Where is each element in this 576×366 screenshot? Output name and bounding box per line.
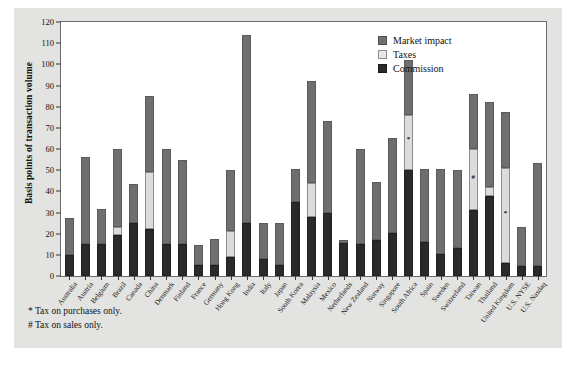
bar-column[interactable] [323,22,332,276]
bar-segment-cm [259,259,268,276]
bar-segment-cm [275,265,284,276]
x-axis-tick-mark [198,276,199,280]
bar-column[interactable] [65,22,74,276]
bar-segment-cm [210,265,219,276]
bar-segment-tx [113,227,122,234]
footnote: * Tax on purchases only. [28,304,122,318]
bar-column[interactable] [97,22,106,276]
bar-column[interactable] [275,22,284,276]
bar-column[interactable] [533,22,542,276]
bar-segment-cm [129,223,138,276]
x-axis-tick-mark [69,276,70,280]
bar-segment-mi [420,169,429,242]
bar-segment-tx [307,183,316,217]
bar-segment-cm [501,263,510,276]
x-axis-tick-mark [457,276,458,280]
bar-segment-mi [226,170,235,230]
bar-column[interactable] [356,22,365,276]
chart-container: Basis points of transaction volume 01020… [14,8,562,348]
bar-segment-cm [533,266,542,276]
x-axis-tick-mark [344,276,345,280]
bar-column[interactable] [307,22,316,276]
bar-segment-cm [339,243,348,276]
bar-column[interactable] [259,22,268,276]
figure-panel: Basis points of transaction volume 01020… [14,8,562,348]
bar-column[interactable] [129,22,138,276]
bar-column[interactable] [291,22,300,276]
y-axis-label: Basis points of transaction volume [24,33,34,233]
footnote: # Tax on sales only. [28,318,122,332]
bar-segment-mi [242,35,251,223]
bar-segment-cm [178,244,187,276]
bar-segment-mi [517,227,526,266]
bar-segment-mi [275,223,284,265]
x-axis-tick-mark [473,276,474,280]
bar-segment-cm [65,255,74,276]
legend-item: Commission [378,62,452,75]
x-axis-tick-mark [215,276,216,280]
bar-segment-mi [65,218,74,255]
bar-column[interactable] [178,22,187,276]
bar-annotation-marker: * [501,210,510,217]
x-axis-tick-label: Australia [56,280,80,307]
bar-segment-mi [194,245,203,265]
bar-segment-tx [145,172,154,229]
bar-segment-cm [420,242,429,276]
footnotes: * Tax on purchases only.# Tax on sales o… [28,304,122,332]
bar-segment-cm [485,196,494,276]
bar-segment-cm [517,266,526,276]
x-axis-tick-label: Italy [258,280,273,296]
bar-segment-mi [436,169,445,254]
bar-column[interactable] [242,22,251,276]
bar-segment-cm [194,265,203,276]
bar-column[interactable] [162,22,171,276]
bar-segment-cm [145,229,154,276]
bar-segment-mi [485,102,494,187]
bar-segment-cm [323,213,332,277]
bar-segment-cm [242,223,251,276]
x-axis-tick-mark [425,276,426,280]
x-axis-tick-mark [279,276,280,280]
bar-column[interactable] [517,22,526,276]
bar-segment-cm [436,254,445,276]
bar-segment-mi [323,121,332,212]
x-axis-tick-mark [360,276,361,280]
bar-column[interactable] [485,22,494,276]
x-axis-tick-mark [182,276,183,280]
legend-label: Market impact [393,35,452,46]
bar-segment-cm [307,217,316,276]
x-axis-tick-mark [85,276,86,280]
x-axis-tick-mark [118,276,119,280]
bar-column[interactable] [81,22,90,276]
bar-segment-mi [388,138,397,232]
bar-segment-cm [97,244,106,276]
bar-segment-mi [210,239,219,265]
x-axis-tick-mark [247,276,248,280]
bar-segment-mi [307,81,316,183]
bar-segment-mi [145,96,154,172]
bar-column[interactable] [210,22,219,276]
bar-segment-cm [469,210,478,276]
bar-segment-mi [372,182,381,240]
bar-annotation-marker: # [469,174,478,181]
x-axis-tick-mark [263,276,264,280]
x-axis-tick-mark [522,276,523,280]
bar-segment-tx [226,231,235,257]
bar-column[interactable] [145,22,154,276]
bar-column[interactable] [339,22,348,276]
bar-column[interactable] [194,22,203,276]
bar-column[interactable]: * [501,22,510,276]
legend-swatch-icon [378,36,387,45]
bar-segment-mi [113,149,122,227]
bar-segment-mi [469,94,478,149]
bar-segment-cm [226,257,235,276]
bar-column[interactable] [113,22,122,276]
bar-segment-mi [453,170,462,248]
bar-column[interactable]: # [469,22,478,276]
bar-column[interactable] [453,22,462,276]
legend-label: Commission [393,63,444,74]
bar-segment-mi [259,223,268,259]
bar-annotation-marker: * [404,136,413,143]
bar-column[interactable] [226,22,235,276]
x-axis-tick-mark [376,276,377,280]
